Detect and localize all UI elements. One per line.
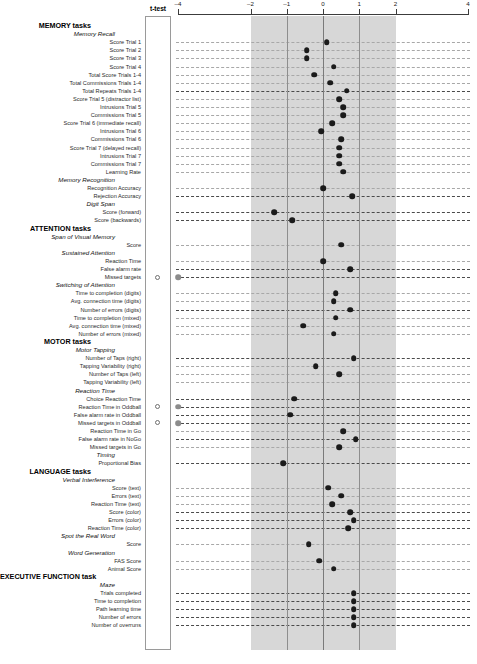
ttest-column [145, 16, 171, 650]
measure-label: Commissions Trial 6 [0, 135, 143, 143]
domain-heading: EXECUTIVE FUNCTION task [0, 573, 143, 581]
measure-label: Missed targets [0, 273, 143, 281]
axis-tick [359, 9, 360, 15]
measure-label: False alarm rate in Oddball [0, 411, 143, 419]
measure-label: Time to completion (digits) [0, 289, 143, 297]
axis-tick-label: 0 [321, 0, 324, 7]
measure-label: Path learning time [0, 605, 143, 613]
axis-tick-label: –1 [283, 0, 290, 7]
measure-label: Total Repeats Trials 1-4 [0, 87, 143, 95]
measure-label: False alarm rate [0, 265, 143, 273]
test-heading: Reaction Time [0, 387, 143, 395]
measure-label: Trials completed [0, 589, 143, 597]
measure-label: Score Trial 7 (delayed recall) [0, 144, 143, 152]
measure-label: Number of Taps (left) [0, 370, 143, 378]
domain-heading: ATTENTION tasks [0, 225, 143, 233]
axis-tick [468, 9, 469, 15]
axis-tick [178, 9, 179, 15]
plot-frame [176, 16, 470, 650]
test-heading: Sustained Attention [0, 249, 143, 257]
measure-label: Commissions Trial 5 [0, 111, 143, 119]
measure-label: Number of overruns [0, 621, 143, 629]
axis-tick [396, 9, 397, 15]
measure-label: Number of Taps (right) [0, 354, 143, 362]
test-heading: Memory Recognition [0, 176, 143, 184]
measure-label: Score [0, 540, 143, 548]
measure-label: FAS Score [0, 557, 143, 565]
measure-label: Score (text) [0, 484, 143, 492]
measure-label: Score Trial 5 (distractor list) [0, 95, 143, 103]
measure-label: Score (color) [0, 508, 143, 516]
test-heading: Memory Recall [0, 30, 143, 38]
measure-label: Score Trial 1 [0, 38, 143, 46]
test-heading: Digit Span [0, 200, 143, 208]
axis-tick-label: –4 [175, 0, 182, 7]
test-heading: Maze [0, 581, 143, 589]
domain-heading: LANGUAGE tasks [0, 468, 143, 476]
x-axis: z-value –4–2–10124 [176, 0, 470, 17]
measure-label: Missed targets in Oddball [0, 419, 143, 427]
measure-label: Time to completion (mixed) [0, 314, 143, 322]
axis-tick-label: 1 [358, 0, 361, 7]
measure-label: Missed targets in Go [0, 443, 143, 451]
measure-label: Total Score Trials 1-4 [0, 71, 143, 79]
axis-tick [251, 9, 252, 15]
ttest-column-header: t-test [145, 5, 171, 12]
measure-label: Errors (text) [0, 492, 143, 500]
measure-label: Tapping Variability (left) [0, 378, 143, 386]
axis-tick [323, 9, 324, 15]
test-heading: Word Generation [0, 549, 143, 557]
ttest-significance-icon [155, 275, 160, 280]
measure-label: Choice Reaction Time [0, 395, 143, 403]
measure-label: Intrusions Trial 5 [0, 103, 143, 111]
axis-tick-label: –2 [247, 0, 254, 7]
measure-label: Learning Rate [0, 168, 143, 176]
measure-label: Score [0, 241, 143, 249]
test-heading: Spot the Real Word [0, 532, 143, 540]
measure-label: Reaction Time (text) [0, 500, 143, 508]
measure-label: Avg. connection time (digits) [0, 297, 143, 305]
measure-label: Intrusions Trial 6 [0, 127, 143, 135]
measure-label: Total Commissions Trials 1-4 [0, 79, 143, 87]
measure-label: Intrusions Trial 7 [0, 152, 143, 160]
measure-label: Reaction Time in Oddball [0, 403, 143, 411]
axis-tick [287, 9, 288, 15]
measure-label: Reaction Time in Go [0, 427, 143, 435]
test-heading: Switching of Attention [0, 281, 143, 289]
test-heading: Timing [0, 451, 143, 459]
test-heading: Verbal Interference [0, 476, 143, 484]
measure-label: Avg. connection time (mixed) [0, 322, 143, 330]
measure-label: Rejection Accuracy [0, 192, 143, 200]
measure-label: Commissions Trial 7 [0, 160, 143, 168]
test-heading: Motor Tapping [0, 346, 143, 354]
measure-label: False alarm rate in NoGo [0, 435, 143, 443]
row-label-column: MEMORY tasksMemory RecallScore Trial 1Sc… [0, 0, 145, 664]
measure-label: Score Trial 2 [0, 46, 143, 54]
measure-label: Reaction Time (color) [0, 524, 143, 532]
measure-label: Score Trial 3 [0, 54, 143, 62]
axis-tick-label: 4 [466, 0, 469, 7]
measure-label: Score Trial 4 [0, 63, 143, 71]
test-heading: Span of Visual Memory [0, 233, 143, 241]
measure-label: Score Trial 6 (immediate recall) [0, 119, 143, 127]
measure-label: Number of errors [0, 613, 143, 621]
plot-area [176, 16, 470, 650]
measure-label: Recognition Accuracy [0, 184, 143, 192]
measure-label: Number of errors (digits) [0, 306, 143, 314]
measure-label: Tapping Variability (right) [0, 362, 143, 370]
axis-tick-label: 2 [394, 0, 397, 7]
domain-heading: MEMORY tasks [0, 22, 143, 30]
measure-label: Score (forward) [0, 208, 143, 216]
measure-label: Time to completion [0, 597, 143, 605]
neuropsych-profile-chart: z-value –4–2–10124 MEMORY tasksMemory Re… [0, 0, 477, 664]
domain-heading: MOTOR tasks [0, 338, 143, 346]
measure-label: Errors (color) [0, 516, 143, 524]
measure-label: Reaction Time [0, 257, 143, 265]
